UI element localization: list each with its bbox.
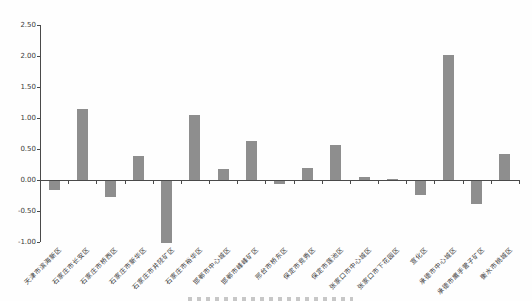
y-tick-label: 2.00 [10, 52, 36, 60]
x-tick-mark [125, 180, 126, 184]
bar [499, 154, 510, 180]
x-tick-mark [519, 180, 520, 184]
truncated-caption-text [188, 297, 353, 301]
x-tick-mark [68, 180, 69, 184]
x-axis-label: 宣化区 [410, 247, 430, 267]
y-axis-line [40, 25, 41, 242]
y-tick-label: 2.50 [10, 21, 36, 29]
bar [246, 141, 257, 180]
y-tick-mark [37, 118, 40, 119]
x-tick-mark [40, 180, 41, 184]
y-tick-label: 1.50 [10, 83, 36, 91]
y-tick-label: 0.00 [10, 176, 36, 184]
x-tick-mark [322, 180, 323, 184]
bar [77, 109, 88, 180]
x-tick-mark [378, 180, 379, 184]
x-tick-mark [209, 180, 210, 184]
x-tick-mark [181, 180, 182, 184]
bar [218, 169, 229, 180]
bar [133, 156, 144, 180]
x-tick-mark [350, 180, 351, 184]
y-tick-mark [37, 25, 40, 26]
bar [49, 181, 60, 190]
x-tick-mark [237, 180, 238, 184]
bar [359, 177, 370, 180]
x-tick-mark [153, 180, 154, 184]
bar [387, 179, 398, 180]
y-tick-mark [37, 149, 40, 150]
bar [471, 181, 482, 204]
bar [105, 181, 116, 197]
x-tick-mark [294, 180, 295, 184]
bar [302, 168, 313, 180]
x-tick-mark [265, 180, 266, 184]
bar [189, 115, 200, 180]
y-tick-label: 0.50 [10, 145, 36, 153]
y-tick-label: -0.50 [10, 207, 36, 215]
bar [161, 181, 172, 243]
x-tick-mark [406, 180, 407, 184]
x-tick-mark [96, 180, 97, 184]
x-tick-mark [491, 180, 492, 184]
y-tick-mark [37, 56, 40, 57]
y-tick-mark [37, 211, 40, 212]
y-tick-label: 1.00 [10, 114, 36, 122]
bar-chart: 2.502.001.501.000.500.00-0.50-1.00天津市滨海新… [0, 0, 532, 301]
bar [443, 55, 454, 180]
bar [274, 181, 285, 184]
x-tick-mark [463, 180, 464, 184]
bar [330, 145, 341, 180]
bar [415, 181, 426, 195]
y-tick-mark [37, 242, 40, 243]
x-tick-mark [434, 180, 435, 184]
y-tick-label: -1.00 [10, 238, 36, 246]
y-tick-mark [37, 87, 40, 88]
